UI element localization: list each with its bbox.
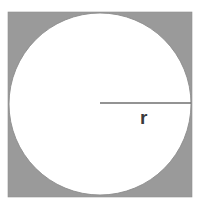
circle-shape bbox=[9, 13, 191, 195]
circle-in-square-diagram: r bbox=[0, 0, 203, 208]
radius-label: r bbox=[140, 107, 148, 128]
figure-canvas: r bbox=[0, 0, 203, 208]
